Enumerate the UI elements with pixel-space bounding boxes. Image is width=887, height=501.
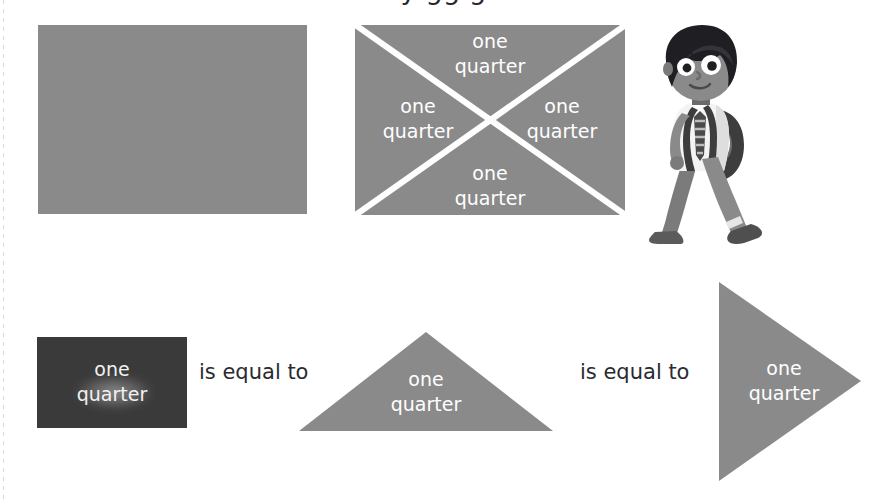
quarter-label-top-line1: one: [355, 29, 625, 54]
walking-schoolboy-illustration: [628, 17, 766, 245]
is-equal-to-text-2: is equal to: [580, 360, 689, 384]
upward-triangle-label-line1: one: [299, 367, 553, 392]
rightward-quarter-triangle: one quarter: [719, 282, 861, 481]
page-heading-clipped: y gg g: [0, 0, 887, 8]
quarter-label-left: one quarter: [359, 94, 477, 144]
quarter-label-right: one quarter: [503, 94, 621, 144]
quarter-label-bottom-line1: one: [355, 161, 625, 186]
rightward-triangle-label-line1: one: [713, 356, 855, 381]
dark-rectangle-label-line2: quarter: [37, 382, 187, 407]
upward-triangle-label-line2: quarter: [299, 392, 553, 417]
is-equal-to-text-1: is equal to: [199, 360, 308, 384]
quarter-label-left-line2: quarter: [359, 119, 477, 144]
margin-guide-line: [3, 0, 4, 501]
quarter-label-left-line1: one: [359, 94, 477, 119]
upward-quarter-triangle: one quarter: [299, 332, 553, 431]
quarter-label-top: one quarter: [355, 29, 625, 79]
quarter-label-bottom: one quarter: [355, 161, 625, 211]
dark-rectangle-label: one quarter: [37, 357, 187, 407]
rightward-triangle-label-line2: quarter: [713, 381, 855, 406]
upward-triangle-label: one quarter: [299, 367, 553, 417]
dark-rectangle-label-line1: one: [37, 357, 187, 382]
quartered-rectangle: one quarter one quarter one quarter one …: [355, 25, 625, 215]
quarter-label-right-line1: one: [503, 94, 621, 119]
rightward-triangle-label: one quarter: [713, 356, 855, 406]
dark-quarter-rectangle: one quarter: [37, 337, 187, 428]
worksheet-page: y gg g one quarter one quarter one quart…: [0, 0, 887, 501]
quarter-label-bottom-line2: quarter: [355, 186, 625, 211]
quarter-label-right-line2: quarter: [503, 119, 621, 144]
quarter-label-top-line2: quarter: [355, 54, 625, 79]
whole-rectangle: [38, 25, 307, 214]
